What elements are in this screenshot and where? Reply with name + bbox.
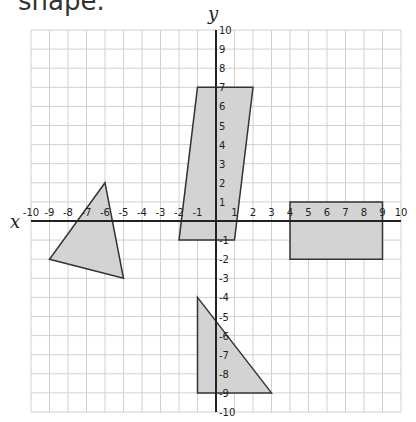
x-tick-label: -8: [63, 207, 73, 218]
y-tick-label: 8: [219, 63, 225, 74]
coordinate-plane: -10-9-8-7-6-5-4-3-2-11234567891010987654…: [0, 0, 416, 422]
y-tick-label: -2: [219, 254, 229, 265]
x-tick-label: 4: [287, 207, 293, 218]
x-tick-label: -10: [23, 207, 39, 218]
y-tick-label: 3: [219, 159, 225, 170]
x-tick-label: 1: [231, 207, 237, 218]
x-tick-label: -5: [119, 207, 129, 218]
x-tick-label: 7: [342, 207, 348, 218]
y-tick-label: 5: [219, 121, 225, 132]
y-tick-label: -3: [219, 273, 229, 284]
y-tick-label: -8: [219, 369, 229, 380]
x-tick-label: 8: [361, 207, 367, 218]
x-tick-label: -2: [174, 207, 184, 218]
y-tick-label: 4: [219, 140, 225, 151]
y-tick-label: -6: [219, 331, 229, 342]
y-tick-label: -9: [219, 388, 229, 399]
x-tick-label: -4: [137, 207, 147, 218]
y-tick-label: 9: [219, 44, 225, 55]
y-tick-label: -10: [219, 407, 235, 418]
y-tick-label: 6: [219, 101, 225, 112]
x-axis-label: x: [10, 211, 20, 232]
y-axis-label: y: [207, 3, 219, 24]
rectangle: [290, 202, 383, 259]
x-tick-label: -3: [156, 207, 166, 218]
y-tick-label: 2: [219, 178, 225, 189]
y-tick-label: 10: [219, 25, 232, 36]
x-tick-label: 5: [305, 207, 311, 218]
x-tick-label: 9: [379, 207, 385, 218]
x-tick-label: -1: [193, 207, 203, 218]
y-tick-label: -1: [219, 235, 229, 246]
y-tick-label: -7: [219, 350, 229, 361]
y-tick-label: 7: [219, 82, 225, 93]
x-tick-label: -9: [45, 207, 55, 218]
x-tick-label: 10: [395, 207, 408, 218]
x-tick-label: 3: [268, 207, 274, 218]
y-tick-label: -4: [219, 292, 229, 303]
x-tick-label: -7: [82, 207, 92, 218]
x-tick-label: -6: [100, 207, 110, 218]
x-tick-label: 2: [250, 207, 256, 218]
y-tick-label: 1: [219, 197, 225, 208]
x-tick-label: 6: [324, 207, 330, 218]
y-tick-label: -5: [219, 312, 229, 323]
